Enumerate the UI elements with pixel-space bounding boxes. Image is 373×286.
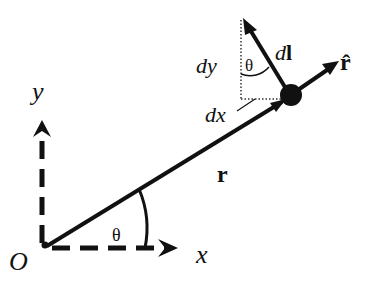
- unit-vector-r-hat: [295, 68, 330, 92]
- x-axis-arrow-icon: [158, 239, 178, 257]
- particle: [280, 84, 302, 106]
- angle-label-origin: θ: [112, 225, 121, 245]
- dy-label: dy: [196, 53, 217, 78]
- line-element-label: dl: [275, 40, 292, 65]
- dx-leader-line: [237, 99, 255, 111]
- x-axis-label: x: [195, 240, 208, 269]
- position-vector-r: [47, 102, 282, 246]
- unit-vector-label: r̂: [340, 49, 351, 75]
- y-axis-arrow-icon: [33, 120, 51, 137]
- position-vector-label: r: [217, 161, 228, 187]
- dl-arrow-icon: [243, 18, 257, 35]
- dx-label: dx: [205, 102, 226, 127]
- y-axis: [33, 120, 51, 243]
- diagram-canvas: y x O θ r r̂ θ dl dy dx: [0, 0, 373, 286]
- y-axis-label: y: [29, 77, 44, 106]
- angle-label-element: θ: [245, 56, 253, 75]
- origin-label: O: [9, 247, 28, 276]
- angle-arc-origin: [139, 189, 147, 248]
